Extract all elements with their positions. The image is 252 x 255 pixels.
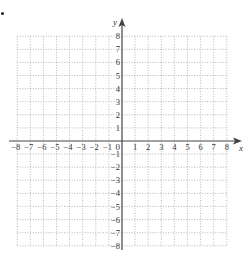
x-tick-label: 8 bbox=[225, 142, 229, 152]
list-bullet bbox=[1, 12, 4, 15]
x-tick-label: −5 bbox=[50, 142, 59, 152]
x-tick-label: −4 bbox=[64, 142, 74, 152]
x-tick-label: 3 bbox=[159, 142, 163, 152]
x-tick-label: −6 bbox=[37, 142, 46, 152]
x-tick-label: 6 bbox=[198, 142, 202, 152]
x-tick-labels: −8−7−6−5−4−3−2−112345678 bbox=[11, 142, 229, 152]
y-tick-label: 4 bbox=[116, 84, 121, 94]
x-tick-label: −8 bbox=[11, 142, 20, 152]
x-tick-label: −3 bbox=[77, 142, 86, 152]
y-axis-label: y bbox=[112, 17, 117, 27]
x-tick-label: 1 bbox=[133, 142, 137, 152]
x-tick-label: 4 bbox=[172, 142, 177, 152]
coordinate-plane-figure: x y 0 −8−7−6−5−4−3−2−112345678 87654321−… bbox=[0, 0, 252, 255]
y-tick-label: −8 bbox=[111, 241, 120, 251]
x-tick-label: −7 bbox=[24, 142, 33, 152]
x-tick-label: −2 bbox=[90, 142, 99, 152]
axes: x y 0 bbox=[9, 17, 243, 250]
x-tick-label: 7 bbox=[212, 142, 216, 152]
y-tick-label: 3 bbox=[116, 97, 120, 107]
y-tick-label: −1 bbox=[111, 149, 120, 159]
y-tick-label: 5 bbox=[116, 71, 120, 81]
coordinate-grid: x y 0 −8−7−6−5−4−3−2−112345678 87654321−… bbox=[0, 0, 252, 255]
y-tick-label: 8 bbox=[116, 31, 120, 41]
y-tick-label: −5 bbox=[111, 202, 120, 212]
x-tick-label: 5 bbox=[185, 142, 189, 152]
y-tick-label: −6 bbox=[111, 215, 120, 225]
y-tick-label: −3 bbox=[111, 175, 120, 185]
y-tick-label: −7 bbox=[111, 228, 120, 238]
y-tick-label: 1 bbox=[116, 123, 120, 133]
y-tick-label: 7 bbox=[116, 44, 120, 54]
y-tick-label: 6 bbox=[116, 57, 120, 67]
y-tick-label: 2 bbox=[116, 110, 120, 120]
y-tick-label: −4 bbox=[111, 188, 121, 198]
x-axis-label: x bbox=[238, 143, 243, 153]
y-tick-label: −2 bbox=[111, 162, 120, 172]
x-tick-label: 2 bbox=[146, 142, 150, 152]
